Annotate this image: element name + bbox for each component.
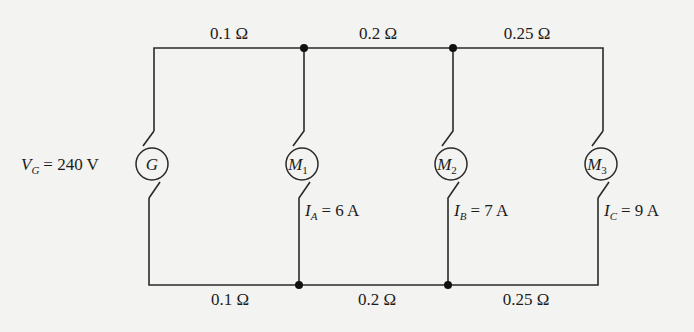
motor-1: M1 bbox=[286, 48, 318, 285]
current-label-a: IA= 6 A bbox=[304, 201, 360, 222]
motor-1-bottom-lead bbox=[299, 182, 310, 285]
generator-top-lead bbox=[143, 131, 154, 146]
motor-1-symbol: M1 bbox=[287, 155, 308, 176]
current-label-b: IB= 7 A bbox=[453, 201, 509, 222]
motor-1-top-lead bbox=[293, 48, 304, 146]
generator-bottom-lead bbox=[149, 182, 160, 198]
top-resistance-1: 0.1 Ω bbox=[210, 24, 248, 43]
top-resistance-3: 0.25 Ω bbox=[504, 24, 551, 43]
bottom-wire bbox=[149, 198, 598, 285]
motor-2-bottom-lead bbox=[448, 182, 459, 285]
motor-3-bottom-lead bbox=[598, 182, 609, 198]
circuit-diagram: G M1 M2 M3 0.1 Ω 0.2 Ω 0.25 Ω 0.1 Ω 0.2 … bbox=[0, 0, 694, 332]
junction-node-top-1 bbox=[300, 44, 308, 52]
motor-3-symbol: M3 bbox=[586, 155, 607, 176]
generator-symbol: G bbox=[146, 155, 158, 174]
bottom-resistance-1: 0.1 Ω bbox=[211, 290, 249, 309]
motor-3-top-lead bbox=[592, 131, 603, 146]
junction-node-top-2 bbox=[449, 44, 457, 52]
junction-node-bottom-1 bbox=[295, 281, 303, 289]
current-label-c: IC= 9 A bbox=[603, 201, 660, 222]
top-resistance-2: 0.2 Ω bbox=[359, 24, 397, 43]
motor-3: M3 bbox=[585, 131, 617, 198]
motor-2-top-lead bbox=[442, 48, 453, 146]
generator: G bbox=[136, 131, 168, 198]
bottom-resistance-3: 0.25 Ω bbox=[503, 290, 550, 309]
motor-2: M2 bbox=[435, 48, 467, 285]
source-voltage-label: VG= 240 V bbox=[21, 155, 100, 176]
junction-node-bottom-2 bbox=[444, 281, 452, 289]
motor-2-symbol: M2 bbox=[436, 155, 457, 176]
bottom-resistance-2: 0.2 Ω bbox=[358, 290, 396, 309]
top-wire bbox=[154, 48, 603, 131]
